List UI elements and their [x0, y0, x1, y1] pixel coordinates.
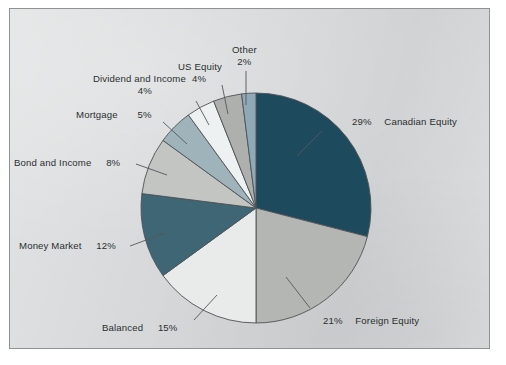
- label-bond-and-income-name: Bond and Income: [14, 157, 91, 169]
- label-canadian-equity: 29% Canadian Equity: [352, 116, 457, 128]
- label-other-name: Other: [232, 44, 257, 56]
- label-us-equity-name: US Equity: [178, 61, 222, 73]
- label-canadian-equity-pct: 29%: [352, 116, 372, 128]
- label-bond-and-income-pct: 8%: [106, 157, 120, 169]
- pie-slices-group: [141, 93, 371, 323]
- label-dividend-and-income-name: Dividend and Income: [93, 73, 186, 85]
- chart-frame: 29% Canadian Equity 21% Foreign Equity B…: [9, 8, 490, 349]
- label-bond-and-income: Bond and Income 8%: [14, 157, 120, 169]
- label-money-market: Money Market 12%: [19, 240, 116, 252]
- label-money-market-pct: 12%: [96, 240, 116, 252]
- label-money-market-name: Money Market: [19, 240, 82, 252]
- label-other-pct: 2%: [232, 56, 257, 68]
- label-foreign-equity-name: Foreign Equity: [355, 315, 419, 327]
- label-mortgage-pct: 5%: [137, 109, 151, 121]
- label-canadian-equity-name: Canadian Equity: [384, 116, 457, 128]
- label-dividend-and-income: Dividend and Income 4%: [93, 73, 186, 96]
- label-foreign-equity: 21% Foreign Equity: [323, 315, 419, 327]
- label-other: Other 2%: [232, 44, 257, 67]
- label-us-equity-pct: 4%: [178, 73, 222, 85]
- label-balanced-name: Balanced: [102, 322, 143, 334]
- label-dividend-and-income-pct: 4%: [93, 85, 186, 97]
- label-balanced: Balanced 15%: [102, 322, 178, 334]
- label-mortgage-name: Mortgage: [76, 109, 118, 121]
- label-foreign-equity-pct: 21%: [323, 315, 343, 327]
- label-balanced-pct: 15%: [158, 322, 178, 334]
- label-mortgage: Mortgage 5%: [76, 109, 152, 121]
- label-us-equity: US Equity 4%: [178, 61, 222, 84]
